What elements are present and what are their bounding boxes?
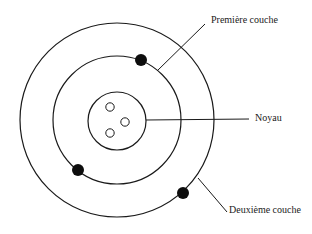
label-noyau: Noyau xyxy=(255,112,282,123)
nucleon xyxy=(106,129,114,137)
leader-line-noyau xyxy=(146,119,249,120)
nucleon xyxy=(121,118,129,126)
label-deuxieme-couche: Deuxième couche xyxy=(229,204,301,215)
electron xyxy=(135,54,147,66)
electron xyxy=(72,164,84,176)
leader-line-deuxieme-couche xyxy=(198,178,227,212)
nucleon xyxy=(106,103,114,111)
electron xyxy=(177,187,189,199)
leader-line-premiere-couche xyxy=(157,24,205,71)
nucleus-circle xyxy=(88,92,146,150)
label-premiere-couche: Première couche xyxy=(211,14,278,25)
atom-diagram: Première couche Noyau Deuxième couche xyxy=(0,0,312,234)
